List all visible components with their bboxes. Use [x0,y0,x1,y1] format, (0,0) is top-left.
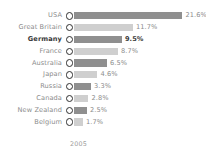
category-label: France [0,48,66,55]
value-label: 6.5% [110,60,127,67]
value-label: 9.5% [125,36,144,43]
value-bar [74,107,87,114]
value-bar [74,118,83,125]
chart-row: Australia 6.5% [0,57,206,69]
chart-row: Canada 2.8% [0,93,206,105]
chart-row: New Zealand 2.5% [0,104,206,116]
bar-area: 11.7% [74,24,206,31]
chart-row: USA 21.6% [0,10,206,22]
chart-footer: 2005 [0,131,206,150]
value-label: 2.8% [91,95,108,102]
value-label: 3.3% [94,83,111,90]
value-label: 1.7% [86,119,103,126]
category-label: Japan [0,71,66,78]
data-point-marker-icon [66,59,73,66]
category-label: Great Britain [0,24,66,31]
value-label: 11.7% [136,24,157,31]
category-label: Belgium [0,119,66,126]
data-point-marker-icon [66,107,73,114]
value-bar [74,48,118,55]
data-point-marker-icon [66,118,73,125]
data-point-marker-icon [66,36,73,43]
data-point-marker-icon [66,95,73,102]
data-point-marker-icon [66,12,73,19]
category-label: Germany [0,36,66,43]
data-point-marker-icon [66,48,73,55]
bar-area: 4.6% [74,71,206,78]
value-bar [74,12,182,19]
bar-area: 9.5% [74,36,206,43]
value-bar [74,59,107,66]
bar-area: 8.7% [74,48,206,55]
value-label: 2.5% [90,107,107,114]
value-bar [74,24,133,31]
chart-row-highlighted: Germany 9.5% [0,34,206,46]
chart-row: Russia 3.3% [0,81,206,93]
chart-row: France 8.7% [0,45,206,57]
category-label: Australia [0,60,66,67]
bar-area: 3.3% [74,83,206,90]
value-bar [74,71,97,78]
category-label: New Zealand [0,107,66,114]
bar-area: 6.5% [74,59,206,66]
bar-area: 21.6% [74,12,206,19]
value-bar [74,36,122,43]
value-label: 4.6% [100,71,117,78]
category-label: USA [0,12,66,19]
value-label: 21.6% [185,12,206,19]
data-point-marker-icon [66,24,73,31]
category-label: Canada [0,95,66,102]
value-bar [74,83,91,90]
bar-area: 2.8% [74,95,206,102]
category-label: Russia [0,83,66,90]
chart-row: Belgium 1.7% [0,116,206,128]
data-point-marker-icon [66,71,73,78]
value-bar [74,95,88,102]
chart-row: Japan 4.6% [0,69,206,81]
value-label: 8.7% [121,48,138,55]
year-label: 2005 [70,140,87,148]
bar-area: 2.5% [74,107,206,114]
data-point-marker-icon [66,83,73,90]
bar-chart: USA 21.6% Great Britain 11.7% Germany 9.… [0,0,206,156]
bar-area: 1.7% [74,118,206,125]
chart-row: Great Britain 11.7% [0,22,206,34]
